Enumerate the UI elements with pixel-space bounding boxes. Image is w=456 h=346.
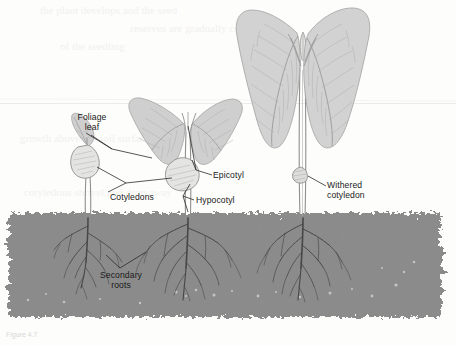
leader-cotyledons-left [97,167,126,192]
cotyledon-middle [165,158,199,191]
label-epicotyl: Epicotyl [213,170,244,180]
foliage-leaf-mature-left [236,10,300,148]
label-cotyledons: Cotyledons [110,192,154,202]
figure-container: the plant develops and the seed reserves… [0,0,456,346]
label-secondary-roots: Secondary roots [90,270,152,290]
leader-withered-cotyledon [308,176,326,186]
label-withered-cotyledon: Withered cotyledon [327,180,365,200]
foliage-leaf-mature-right [304,8,370,148]
foliage-leaf-middle-right [191,99,242,164]
label-hypocotyl: Hypocotyl [196,195,235,205]
leader-cotyledons-right [126,178,172,183]
label-foliage-leaf: Foliage leaf [62,112,122,132]
withered-cotyledon [293,167,308,183]
cotyledon-young [71,145,100,178]
soil-band [8,213,442,318]
figure-caption: Figure 4.7 [6,331,38,338]
leader-foliage-leaf-right [112,149,152,158]
